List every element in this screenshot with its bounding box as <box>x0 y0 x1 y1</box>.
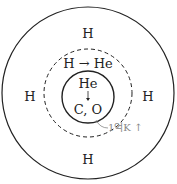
fusion-label: H → He <box>63 56 113 71</box>
core-co-label: C, O <box>74 102 102 117</box>
h-label-top: H <box>82 26 93 41</box>
star-structure-diagram: H H H H H → He He C, O 1억K ↑ <box>0 0 177 184</box>
h-label-left: H <box>24 89 35 104</box>
temperature-annotation: 1억K ↑ <box>108 122 142 133</box>
h-label-right: H <box>142 89 153 104</box>
h-label-bottom: H <box>82 152 93 167</box>
arrowhead-icon <box>86 98 90 101</box>
core-he-label: He <box>78 76 97 91</box>
